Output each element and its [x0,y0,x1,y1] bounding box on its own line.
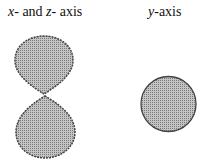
top-lobe [15,36,73,94]
bottom-lobe [16,96,75,158]
radiation-pattern-diagram [0,0,205,164]
y-axis-circle [141,77,196,132]
